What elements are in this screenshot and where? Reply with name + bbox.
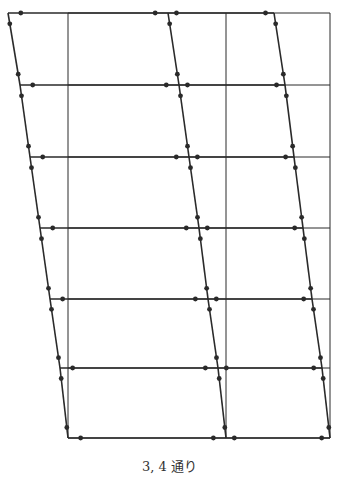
hinge-dot [326, 425, 331, 430]
hinge-dot [195, 155, 200, 160]
hinge-dot [174, 11, 179, 16]
hinge-dot [281, 72, 286, 77]
hinge-dot [185, 83, 190, 88]
hinge-dot [70, 366, 75, 371]
hinge-dot [292, 226, 297, 231]
hinge-dot [222, 425, 227, 430]
hinge-dot [193, 297, 198, 302]
hinge-dot [321, 376, 326, 381]
hinge-dot [319, 436, 324, 441]
hinge-dot [214, 297, 219, 302]
hinge-dot [50, 226, 55, 231]
hinge-dot [60, 297, 65, 302]
hinge-dot [7, 21, 12, 26]
hinge-dot [290, 144, 295, 149]
hinge-dot [217, 376, 222, 381]
hinge-dot [78, 436, 83, 441]
hinge-dot [311, 366, 316, 371]
hinge-dot [56, 355, 61, 360]
hinge-dot [203, 366, 208, 371]
hinge-dot [263, 11, 268, 16]
hinge-dot [301, 297, 306, 302]
hinge-dot [49, 307, 54, 312]
hinge-dot [185, 144, 190, 149]
hinge-dot [19, 93, 24, 98]
hinge-dot [302, 236, 307, 241]
hinge-dot [273, 21, 278, 26]
hinge-dot [26, 144, 31, 149]
hinge-dot [195, 215, 200, 220]
hinge-dot [164, 83, 169, 88]
hinge-dot [207, 307, 212, 312]
hinge-dot [175, 72, 180, 77]
hinge-dot [36, 215, 41, 220]
hinge-dot [283, 155, 288, 160]
hinge-dot [18, 11, 23, 16]
hinge-dot [214, 355, 219, 360]
hinge-dot [205, 226, 210, 231]
hinge-dot [274, 83, 279, 88]
hinge-dot [311, 307, 316, 312]
hinge-dot [188, 165, 193, 170]
hinge-dot [184, 226, 189, 231]
hinge-dot [174, 155, 179, 160]
hinge-dot [284, 93, 289, 98]
hinge-dot [178, 93, 183, 98]
hinge-dot [299, 215, 304, 220]
hinge-dot [293, 165, 298, 170]
hinge-dot [308, 286, 313, 291]
hinge-dot [318, 355, 323, 360]
hinge-dot [16, 72, 21, 77]
hinge-dot [40, 155, 45, 160]
hinge-dot [167, 21, 172, 26]
hinge-dot [46, 286, 51, 291]
hinge-dot [224, 366, 229, 371]
hinge-dot [232, 436, 237, 441]
frame-deformation-diagram [0, 0, 339, 479]
hinge-dot [153, 11, 158, 16]
hinge-dot [64, 425, 69, 430]
hinge-dot [30, 83, 35, 88]
hinge-dot [39, 236, 44, 241]
hinge-dot [204, 286, 209, 291]
hinge-dot [198, 236, 203, 241]
hinge-dot [59, 376, 64, 381]
hinge-dot [29, 165, 34, 170]
diagram-caption: 3, 4 通り [0, 456, 339, 475]
hinge-dot [211, 436, 216, 441]
